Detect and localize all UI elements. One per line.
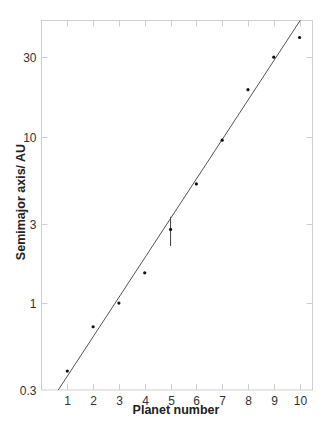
x-tick-label: 10	[294, 394, 308, 408]
y-axis-ticks: 0.3131030	[20, 51, 313, 398]
y-tick-label: 3	[30, 218, 37, 232]
x-tick-label: 3	[116, 394, 123, 408]
data-point	[169, 228, 172, 231]
x-tick-label: 8	[245, 394, 252, 408]
y-tick-label: 1	[30, 297, 37, 311]
data-point	[298, 36, 301, 39]
data-series	[58, 21, 301, 391]
data-point	[246, 88, 249, 91]
x-tick-label: 2	[90, 394, 97, 408]
y-tick-label: 10	[23, 131, 37, 145]
y-tick-label: 0.3	[20, 384, 37, 398]
data-point	[272, 56, 275, 59]
x-tick-label: 1	[64, 394, 71, 408]
y-axis-title: Semimajor axis/ AU	[14, 144, 28, 260]
y-tick-label: 30	[23, 51, 37, 65]
data-point	[92, 325, 95, 328]
data-point	[221, 139, 224, 142]
x-axis-title: Planet number	[133, 403, 220, 417]
x-tick-label: 9	[271, 394, 278, 408]
plot-frame	[42, 21, 313, 391]
data-point	[117, 301, 120, 304]
data-point	[195, 182, 198, 185]
chart: 12345678910 0.3131030 Planet number Semi…	[0, 0, 327, 435]
data-point	[66, 369, 69, 372]
x-tick-label: 7	[219, 394, 226, 408]
x-axis-ticks: 12345678910	[64, 21, 307, 409]
data-point	[143, 271, 146, 274]
fit-line	[58, 21, 300, 391]
